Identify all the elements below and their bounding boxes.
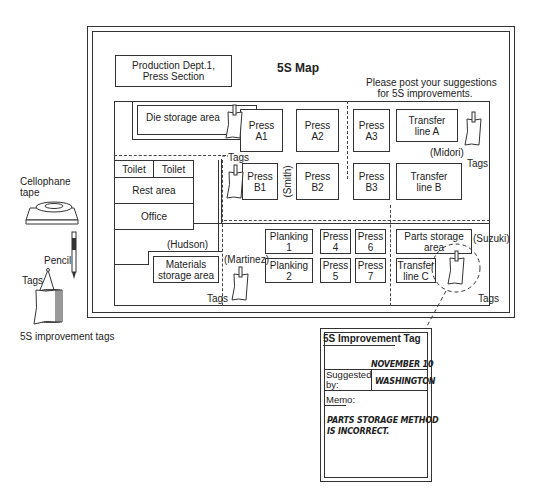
supplies-caption: 5S improvement tags xyxy=(20,331,115,342)
tag-card-title-underline xyxy=(323,345,395,346)
memo-text: PARTS STORAGE METHOD IS INCORRECT. xyxy=(327,415,438,437)
suggested-by-label: Suggested by: xyxy=(326,370,371,390)
memo-line1: PARTS STORAGE METHOD xyxy=(327,415,438,426)
cellophane-line1: Cellophane xyxy=(20,176,71,187)
highlight-circle-and-arrow xyxy=(0,0,536,499)
cellophane-label: Cellophane tape xyxy=(20,176,71,198)
cellophane-line2: tape xyxy=(20,187,71,198)
tape-dispenser-icon xyxy=(22,198,82,228)
pencil-label: Pencil xyxy=(44,255,71,266)
suggested-by-value: WASHINGTON xyxy=(375,376,435,387)
memo-underline xyxy=(324,405,346,406)
tag-stack-icon xyxy=(34,268,64,326)
memo-line2: IS INCORRECT. xyxy=(327,426,438,437)
tag-card-title: 5S Improvement Tag xyxy=(323,333,421,344)
memo-label: Memo: xyxy=(326,394,355,405)
suggested-line2: by: xyxy=(326,380,371,390)
